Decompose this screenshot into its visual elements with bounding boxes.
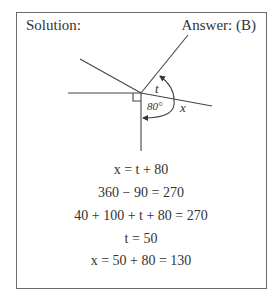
upper-right-line <box>141 35 188 93</box>
label-x: x <box>179 100 186 115</box>
label-t: t <box>155 81 159 96</box>
equation-5: x = 50 + 80 = 130 <box>0 253 280 269</box>
upper-left-line <box>80 59 141 93</box>
equation-1: x = t + 80 <box>0 162 280 178</box>
equation-4: t = 50 <box>0 231 280 247</box>
equation-3: 40 + 100 + t + 80 = 270 <box>0 208 280 224</box>
label-80-degrees: 80° <box>147 100 163 112</box>
equation-2: 360 − 90 = 270 <box>0 185 280 201</box>
right-angle-mark <box>133 93 141 101</box>
